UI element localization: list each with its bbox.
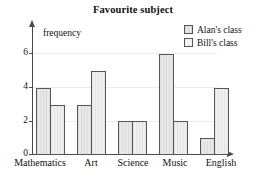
x-tick-label-science: Science xyxy=(110,157,156,168)
bar-science-bill[interactable] xyxy=(132,121,147,155)
y-tick-label-6: 6 xyxy=(4,48,28,58)
bar-group-music xyxy=(159,54,188,155)
y-tick-label-4: 4 xyxy=(4,82,28,92)
bar-group-english xyxy=(200,88,229,155)
chart-title: Favourite subject xyxy=(0,4,266,15)
bar-english-bill[interactable] xyxy=(214,88,229,155)
chart-legend: Alan's class Bill's class xyxy=(184,23,242,49)
legend-swatch-icon-alan xyxy=(184,25,193,34)
bar-chart: Favourite subject frequency 6 4 2 0 xyxy=(0,0,266,182)
y-axis-tick-labels: 6 4 2 0 xyxy=(2,0,28,182)
x-tick-label-english: English xyxy=(196,157,246,168)
bar-group-science xyxy=(118,121,147,155)
y-axis-arrow-icon xyxy=(29,20,35,27)
legend-item-alans-class[interactable]: Alan's class xyxy=(184,23,242,36)
y-tick-label-2: 2 xyxy=(4,116,28,126)
bar-art-bill[interactable] xyxy=(91,71,106,155)
bar-group-mathematics xyxy=(36,88,65,155)
x-axis-tick-labels: Mathematics Art Science Music English xyxy=(0,157,266,177)
bar-mathematics-bill[interactable] xyxy=(50,105,65,156)
legend-label-bill: Bill's class xyxy=(197,38,238,48)
bar-group-art xyxy=(77,71,106,155)
legend-item-bills-class[interactable]: Bill's class xyxy=(184,36,242,49)
x-tick-label-music: Music xyxy=(154,157,196,168)
legend-label-alan: Alan's class xyxy=(197,25,242,35)
x-tick-label-mathematics: Mathematics xyxy=(2,157,78,168)
bar-music-bill[interactable] xyxy=(173,121,188,155)
legend-swatch-icon-bill xyxy=(184,38,193,47)
x-tick-label-art: Art xyxy=(70,157,112,168)
